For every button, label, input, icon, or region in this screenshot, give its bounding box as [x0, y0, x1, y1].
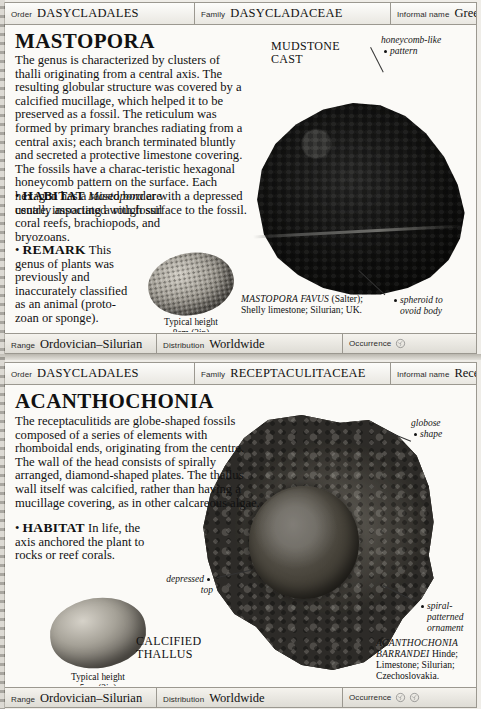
order-value: DASYCLADALES [37, 366, 139, 381]
header-family-cell: Family DASYCLADACEAE [195, 3, 391, 24]
remark-heading: REMARK [23, 242, 86, 257]
habitat-heading: HABITAT [23, 520, 85, 535]
range-value: Ordovician–Silurian [40, 337, 142, 352]
fossil-honeycomb-texture [248, 88, 476, 303]
fossil-globose-head [249, 486, 359, 598]
annotation-globose-shape: globose shape [411, 418, 442, 440]
typical-height-value: 8cm (3in) [133, 328, 249, 332]
distribution-label: Distribution [163, 341, 204, 350]
entry-acanthochonia: Order DASYCLADALES Family RECEPTACULITAC… [4, 362, 477, 708]
page-title: ACANTHOCHONIA [15, 391, 214, 412]
occurrence-icon-group-1 [395, 338, 406, 349]
annotation-line-1: honeycomb-like [381, 35, 441, 46]
typical-height-block-1: Typical height 8cm (3in) [133, 317, 249, 332]
occurrence-label: Occurrence [349, 339, 391, 348]
annotation-dot-icon [421, 605, 424, 608]
header-informal-cell: Informal name Green alga [391, 3, 476, 24]
entry-header: Order DASYCLADALES Family RECEPTACULITAC… [5, 363, 476, 385]
page-gutter-shadow [0, 0, 5, 709]
shell-icon [409, 692, 420, 703]
specimen-details: Shelly limestone; Silurian; UK. [241, 304, 381, 315]
shell-icon [395, 692, 406, 703]
distribution-label: Distribution [163, 695, 204, 704]
specimen-authority: Hinde; [432, 648, 458, 659]
habitat-block: • HABITAT Mastopora are usually associat… [15, 189, 183, 244]
order-label: Order [11, 370, 32, 379]
footer-range-cell: Range Ordovician–Silurian [5, 334, 157, 353]
annotation-line-1: depressed [145, 574, 213, 585]
remark-block: • REMARK This genus of plants was previo… [15, 243, 137, 326]
annotation-line-2: shape [411, 429, 442, 440]
header-informal-cell: Informal name Receptaculitid [391, 363, 476, 384]
annotation-dot-icon [207, 578, 210, 581]
family-value: RECEPTACULITACEAE [230, 366, 365, 381]
annotation-spiral-patterned-ornament: spiral- patterned ornament [418, 601, 463, 634]
annotation-dot-icon [384, 50, 387, 53]
annotation-line-1: spiral- [418, 601, 463, 612]
footer-distribution-cell: Distribution Worldwide [157, 334, 343, 353]
family-label: Family [201, 370, 225, 379]
annotation-line-2: patterned [418, 612, 463, 623]
mastopora-scale-drawing [148, 253, 234, 315]
range-value: Ordovician–Silurian [40, 691, 142, 706]
annotation-line-2: top [145, 585, 213, 596]
annotation-line-3: ornament [418, 623, 463, 634]
occurrence-label: Occurrence [349, 693, 391, 702]
footer-occurrence-cell: Occurrence [343, 334, 476, 353]
specimen-caption-1: MASTOPORA FAVUS (Salter); Shelly limesto… [241, 293, 381, 315]
informal-name-value: Green alga [454, 6, 476, 21]
description-text: The receptaculitids are globe-shaped fos… [15, 415, 263, 510]
informal-name-value: Receptaculitid [454, 366, 476, 381]
annotation-honeycomb-like-pattern: honeycomb-like pattern [381, 35, 441, 57]
annotation-line-1: spheroid to [391, 295, 443, 306]
habitat-paragraph: • HABITAT Mastopora are usually associat… [15, 189, 183, 244]
distribution-value: Worldwide [209, 691, 264, 706]
order-value: DASYCLADALES [37, 6, 139, 21]
mudstone-cast-callout: MUDSTONE CAST [271, 40, 361, 66]
footer-occurrence-cell: Occurrence [343, 688, 476, 707]
footer-distribution-cell: Distribution Worldwide [157, 688, 343, 707]
page-title: MASTOPORA [15, 31, 155, 52]
entry-divider [0, 354, 481, 360]
informal-name-label: Informal name [397, 370, 449, 379]
typical-height-value: 5cm (2in) [40, 683, 156, 686]
habitat-heading: HABITAT [23, 188, 85, 203]
entry-footer: Range Ordovician–Silurian Distribution W… [5, 333, 476, 353]
range-label: Range [11, 695, 35, 704]
header-family-cell: Family RECEPTACULITACEAE [195, 363, 391, 384]
entry-footer: Range Ordovician–Silurian Distribution W… [5, 687, 476, 707]
family-value: DASYCLADACEAE [230, 6, 342, 21]
annotation-spheroid-to-ovoid-body: spheroid to ovoid body [391, 295, 443, 317]
mastopora-fossil-photo [248, 88, 476, 303]
habitat-genus: Mastopora [88, 189, 143, 203]
specimen-details: Limestone; Silurian; Czechoslovakia. [376, 659, 455, 681]
family-label: Family [201, 10, 225, 19]
annotation-line-2: ovoid body [391, 306, 443, 317]
calcified-thallus-callout: CALCIFIED THALLUS [136, 635, 216, 661]
occurrence-icon-group-2 [395, 692, 420, 703]
entry-mastopora: Order DASYCLADALES Family DASYCLADACEAE … [4, 2, 477, 354]
distribution-value: Worldwide [209, 337, 264, 352]
annotation-dot-icon [394, 299, 397, 302]
footer-range-cell: Range Ordovician–Silurian [5, 688, 157, 707]
habitat-paragraph: • HABITAT In life, the axis anchored the… [15, 521, 153, 563]
specimen-species: MASTOPORA FAVUS [241, 293, 329, 304]
remark-paragraph: • REMARK This genus of plants was previo… [15, 243, 137, 326]
typical-height-block-2: Typical height 5cm (2in) [40, 672, 156, 686]
entry-header: Order DASYCLADALES Family DASYCLADACEAE … [5, 3, 476, 25]
order-label: Order [11, 10, 32, 19]
typical-height-label: Typical height [40, 672, 156, 683]
book-page: Order DASYCLADALES Family DASYCLADACEAE … [0, 0, 481, 709]
header-order-cell: Order DASYCLADALES [5, 363, 195, 384]
entry-body: Typical height 5cm (2in) ACANTHOCHONIA T… [5, 385, 476, 686]
scale-drawing-body [143, 246, 238, 322]
header-order-cell: Order DASYCLADALES [5, 3, 195, 24]
shell-icon [395, 338, 406, 349]
range-label: Range [11, 341, 35, 350]
typical-height-label: Typical height [133, 317, 249, 328]
scale-drawing-body [46, 592, 151, 675]
specimen-caption-2: ACANTHOCHONIA BARRANDEI Hinde; Limestone… [376, 637, 476, 681]
annotation-dot-icon [414, 433, 417, 436]
description-paragraph: The receptaculitids are globe-shaped fos… [15, 415, 263, 510]
entry-body: Typical height 8cm (3in) MASTOPORA The g… [5, 25, 476, 332]
